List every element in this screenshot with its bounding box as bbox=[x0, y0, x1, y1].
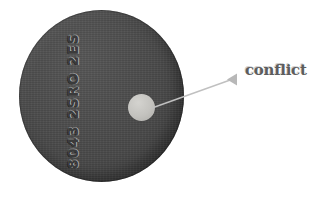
arrowhead-icon bbox=[227, 74, 237, 86]
conflict-label: conflict bbox=[245, 61, 307, 79]
conflict-spot bbox=[128, 94, 155, 121]
disc-surface bbox=[19, 10, 184, 182]
annotated-image: 8043 2SRO 2ES conflict bbox=[0, 0, 309, 197]
disc bbox=[19, 10, 184, 182]
